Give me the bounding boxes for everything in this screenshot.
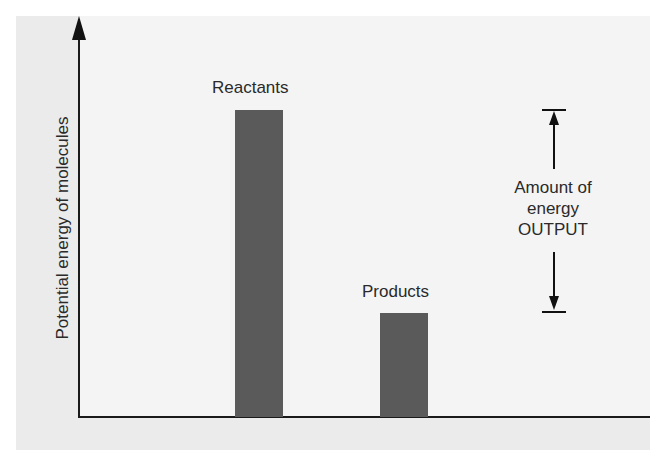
products-bar [380,313,428,417]
y-axis-label: Potential energy of molecules [53,116,73,339]
bracket-bottom-tick [542,311,566,313]
y-axis-line [78,30,80,418]
annotation-line-3: OUTPUT [498,219,608,240]
bracket-upper-line [553,123,555,169]
x-axis-line [78,416,650,418]
y-axis-arrow-icon [72,16,86,40]
annotation-line-2: energy [498,198,608,219]
bracket-lower-line [553,252,555,298]
reactants-label: Reactants [212,78,289,98]
reactants-bar [235,110,283,417]
arrow-down-icon [549,296,559,310]
annotation-line-1: Amount of [498,177,608,198]
energy-output-annotation: Amount of energy OUTPUT [498,177,608,240]
products-label: Products [362,282,429,302]
